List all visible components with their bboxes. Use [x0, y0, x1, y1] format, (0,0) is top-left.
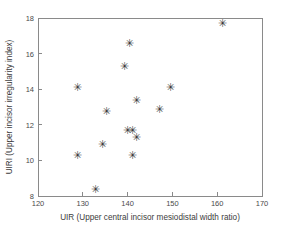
- plot-canvas: 120130140150160170 81012141618 ✳✳✳✳✳✳✳✳✳…: [0, 0, 282, 228]
- data-point-marker: ✳: [155, 103, 164, 115]
- data-point-marker: ✳: [102, 105, 111, 117]
- data-point-marker: ✳: [166, 81, 175, 93]
- y-tick-label: 10: [26, 156, 34, 165]
- data-point-marker: ✳: [120, 60, 129, 72]
- data-point-marker: ✳: [73, 149, 82, 161]
- x-tick-label: 170: [256, 199, 269, 208]
- data-point-marker: ✳: [91, 183, 100, 195]
- x-tick-label: 130: [77, 199, 90, 208]
- plot-frame: [38, 18, 262, 196]
- data-point-marker: ✳: [98, 138, 107, 150]
- y-tick-label: 14: [26, 85, 34, 94]
- data-point-marker: ✳: [125, 37, 134, 49]
- y-tick-label: 12: [26, 121, 34, 130]
- data-point-marker: ✳: [128, 149, 137, 161]
- y-axis-ticks: 81012141618: [26, 14, 42, 201]
- x-axis-title: UIR (Upper central incisor mesiodistal w…: [60, 213, 240, 222]
- data-point-marker: ✳: [73, 81, 82, 93]
- y-tick-label: 18: [26, 14, 34, 23]
- y-tick-label: 16: [26, 50, 34, 59]
- data-point-marker: ✳: [132, 131, 141, 143]
- x-tick-label: 140: [121, 199, 134, 208]
- y-tick-label: 8: [30, 192, 34, 201]
- axes-box: [38, 18, 262, 196]
- x-tick-label: 150: [166, 199, 179, 208]
- data-point-marker: ✳: [132, 94, 141, 106]
- x-axis-ticks: 120130140150160170: [32, 192, 269, 208]
- data-point-series: ✳✳✳✳✳✳✳✳✳✳✳✳✳✳✳: [73, 17, 226, 195]
- x-tick-label: 160: [211, 199, 224, 208]
- scatter-plot-figure: 120130140150160170 81012141618 ✳✳✳✳✳✳✳✳✳…: [0, 0, 282, 228]
- y-axis-title: UIRI (Upper incisor irregularity index): [5, 39, 14, 174]
- data-point-marker: ✳: [218, 17, 227, 29]
